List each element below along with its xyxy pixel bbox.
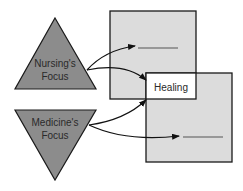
- healing-label: Healing: [154, 82, 188, 93]
- nursing-label-line2: Focus: [41, 71, 68, 82]
- arrow-medicine-to-healing: [89, 100, 146, 125]
- medicine-label-line2: Focus: [41, 130, 68, 141]
- medicine-label-line1: Medicine's: [32, 117, 79, 128]
- nursing-label-line1: Nursing's: [34, 58, 75, 69]
- diagram-canvas: Healing Nursing's Focus Medicine's Focus: [0, 0, 243, 191]
